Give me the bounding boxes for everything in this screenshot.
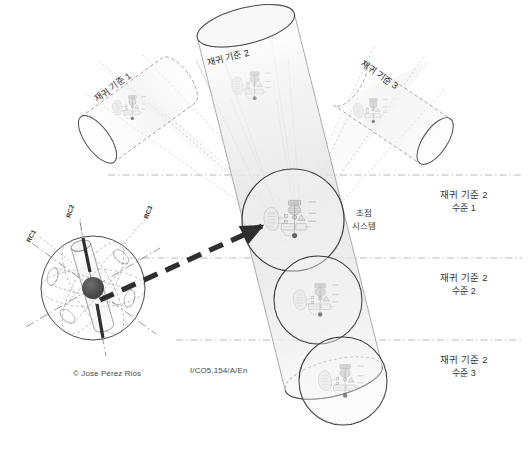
level-label-3-sub: 수준 3 — [418, 367, 510, 379]
vsm-circle-level-1 — [242, 169, 344, 271]
level-label-1-sub: 수준 1 — [418, 202, 510, 214]
level-label-2: 재귀 기준 2 수준 2 — [418, 272, 510, 297]
recursion-sphere — [26, 216, 160, 356]
level-label-2-sub: 수준 2 — [418, 285, 510, 297]
figure-canvas: 재귀 기준 1 재귀 기준 2 재귀 기준 3 초점 시스템 재귀 기준 2 수… — [0, 0, 528, 449]
focus-system-line2: 시스템 — [352, 220, 376, 233]
level-label-3-title: 재귀 기준 2 — [418, 354, 510, 367]
vsm-circle-level-3 — [299, 337, 387, 425]
focus-system-line1: 초점 — [352, 207, 376, 220]
document-code-text: I/CO5,154/A/En — [190, 366, 247, 375]
level-label-1: 재귀 기준 2 수준 1 — [418, 189, 510, 214]
focus-system-label: 초점 시스템 — [352, 207, 376, 233]
copyright-text: © Jose Pérez Rios — [73, 369, 141, 378]
document-code-label: I/CO5,154/A/En — [190, 366, 247, 377]
level-label-1-title: 재귀 기준 2 — [418, 189, 510, 202]
diagram-artwork — [0, 0, 528, 449]
level-label-2-title: 재귀 기준 2 — [418, 272, 510, 285]
level-label-3: 재귀 기준 2 수준 3 — [418, 354, 510, 379]
vsm-circle-level-2 — [274, 256, 362, 344]
recursion-cylinder-1 — [71, 51, 204, 169]
copyright-label: © Jose Pérez Rios — [73, 369, 141, 380]
